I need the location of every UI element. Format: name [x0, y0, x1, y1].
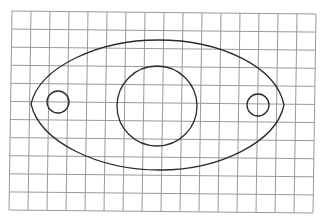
paper-background	[0, 0, 320, 217]
graph-paper-drawing	[0, 0, 320, 217]
